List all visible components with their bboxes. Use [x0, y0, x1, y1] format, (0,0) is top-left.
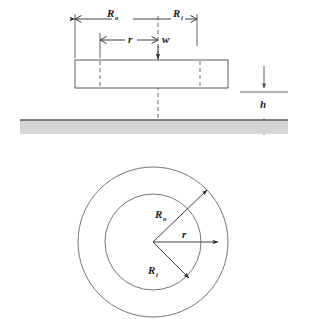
- radius-arrow-inner: [153, 242, 189, 278]
- figure-canvas: R o R i r w h: [0, 0, 309, 319]
- label-plan-inner-radius-symbol: R: [147, 264, 155, 276]
- label-width: w: [162, 33, 170, 45]
- technical-diagram: R o R i r w h: [0, 0, 309, 319]
- label-plan-radial-coordinate: r: [182, 228, 187, 240]
- label-plan-outer-radius-subscript: o: [163, 215, 167, 223]
- substrate-body: [20, 120, 288, 134]
- label-plan-outer-radius-symbol: R: [154, 208, 162, 220]
- label-gap-height: h: [260, 98, 266, 110]
- label-inner-radius-symbol: R: [172, 7, 180, 19]
- side-view-group: R o R i r w h: [20, 7, 288, 135]
- label-outer-radius-subscript: o: [115, 14, 119, 22]
- label-plan-inner-radius-subscript: i: [156, 271, 158, 279]
- plate-cross-section: [75, 60, 228, 88]
- plan-view-group: R o r R i: [78, 167, 228, 317]
- label-outer-radius-symbol: R: [106, 7, 114, 19]
- label-radial-coordinate: r: [128, 33, 133, 45]
- label-inner-radius-subscript: i: [181, 14, 183, 22]
